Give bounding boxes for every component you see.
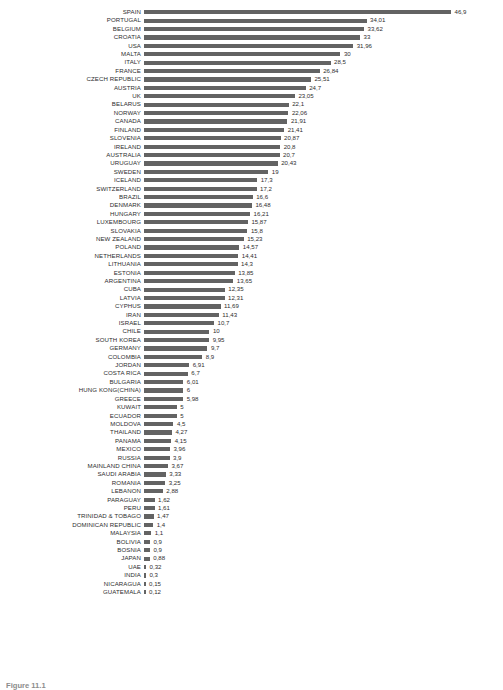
bar-category-label: MALTA bbox=[0, 50, 144, 58]
bar-category-label: SLOVENIA bbox=[0, 134, 144, 142]
bar bbox=[144, 44, 353, 48]
bar-track: 1,62 bbox=[144, 496, 503, 504]
bar-category-label: CANADA bbox=[0, 117, 144, 125]
bar-category-label: NICARAGUA bbox=[0, 580, 144, 588]
bar-row: DOMINICAN REPUBLIC1,4 bbox=[0, 521, 503, 529]
bar-category-label: IRELAND bbox=[0, 143, 144, 151]
bar-category-label: AUSTRIA bbox=[0, 84, 144, 92]
bar-value-label: 30 bbox=[340, 50, 350, 58]
bar-category-label: BOSNIA bbox=[0, 546, 144, 554]
bar-category-label: PORTUGAL bbox=[0, 16, 144, 24]
bar-track: 8,9 bbox=[144, 353, 503, 361]
bar-value-label: 12,31 bbox=[225, 294, 244, 302]
bar-category-label: CUBA bbox=[0, 285, 144, 293]
bar bbox=[144, 464, 168, 468]
bar-row: ARGENTINA13,65 bbox=[0, 277, 503, 285]
bar-row: SAUDI ARABIA3,33 bbox=[0, 470, 503, 478]
bar-value-label: 16,48 bbox=[252, 201, 271, 209]
bar-row: NORWAY22,06 bbox=[0, 109, 503, 117]
bar-category-label: ITALY bbox=[0, 58, 144, 66]
bar bbox=[144, 397, 183, 401]
bar-row: IRELAND20,8 bbox=[0, 143, 503, 151]
bar-value-label: 9,95 bbox=[209, 336, 224, 344]
bar bbox=[144, 170, 268, 174]
bar-category-label: GUATEMALA bbox=[0, 588, 144, 596]
bar bbox=[144, 103, 289, 107]
bar-value-label: 22,1 bbox=[289, 100, 304, 108]
bar-value-label: 16,21 bbox=[250, 210, 269, 218]
bar-value-label: 10 bbox=[209, 327, 219, 335]
bar-row: BOLIVIA0,9 bbox=[0, 538, 503, 546]
bar-row: GREECE5,98 bbox=[0, 395, 503, 403]
bar-track: 17,2 bbox=[144, 185, 503, 193]
bar-row: BELARUS22,1 bbox=[0, 100, 503, 108]
bar-track: 30 bbox=[144, 50, 503, 58]
bar-track: 1,1 bbox=[144, 529, 503, 537]
bar-track: 17,3 bbox=[144, 176, 503, 184]
bar-category-label: LITHUANIA bbox=[0, 260, 144, 268]
bar-row: MAINLAND CHINA3,67 bbox=[0, 462, 503, 470]
bar-row: CANADA21,91 bbox=[0, 117, 503, 125]
bar-track: 5,98 bbox=[144, 395, 503, 403]
bar-track: 14,3 bbox=[144, 260, 503, 268]
bar-row: CHILE10 bbox=[0, 327, 503, 335]
bar-category-label: POLAND bbox=[0, 243, 144, 251]
bar-category-label: RUSSIA bbox=[0, 454, 144, 462]
bar-value-label: 6,01 bbox=[183, 378, 198, 386]
bar-value-label: 0,15 bbox=[146, 580, 161, 588]
bar-value-label: 10,7 bbox=[214, 319, 229, 327]
bar-row: MOLDOVA4,5 bbox=[0, 420, 503, 428]
bar-row: MALTA30 bbox=[0, 50, 503, 58]
bar-track: 21,41 bbox=[144, 126, 503, 134]
bar-track: 16,6 bbox=[144, 193, 503, 201]
bar-value-label: 12,35 bbox=[225, 285, 244, 293]
bar-category-label: BELGIUM bbox=[0, 25, 144, 33]
bar bbox=[144, 161, 278, 165]
bar-category-label: ICELAND bbox=[0, 176, 144, 184]
bar-value-label: 23,05 bbox=[295, 92, 314, 100]
bar-category-label: BELARUS bbox=[0, 100, 144, 108]
bar-track: 16,48 bbox=[144, 201, 503, 209]
bar-category-label: SLOVAKIA bbox=[0, 227, 144, 235]
bar-row: LITHUANIA14,3 bbox=[0, 260, 503, 268]
bar-row: GERMANY9,7 bbox=[0, 344, 503, 352]
bar-value-label: 17,3 bbox=[257, 176, 272, 184]
bar-category-label: HUNGARY bbox=[0, 210, 144, 218]
bar-row: ICELAND17,3 bbox=[0, 176, 503, 184]
bar-value-label: 0,88 bbox=[150, 554, 165, 562]
bar bbox=[144, 346, 207, 350]
figure-caption: Figure 11.1 bbox=[6, 681, 501, 690]
bar-category-label: HUNG KONG(CHINA) bbox=[0, 386, 144, 394]
bar-value-label: 6 bbox=[183, 386, 190, 394]
bar bbox=[144, 229, 247, 233]
bar-row: FINLAND21,41 bbox=[0, 126, 503, 134]
bar bbox=[144, 145, 280, 149]
bar-track: 22,06 bbox=[144, 109, 503, 117]
bar-category-label: DOMINICAN REPUBLIC bbox=[0, 521, 144, 529]
bar bbox=[144, 439, 171, 443]
bar bbox=[144, 220, 248, 224]
bar-category-label: SOUTH KOREA bbox=[0, 336, 144, 344]
bar-row: PARAGUAY1,62 bbox=[0, 496, 503, 504]
bar-value-label: 13,85 bbox=[235, 269, 254, 277]
bar-value-label: 3,33 bbox=[166, 470, 181, 478]
bar-value-label: 3,25 bbox=[165, 479, 180, 487]
bar-row: AUSTRALIA20,7 bbox=[0, 151, 503, 159]
bar-track: 4,15 bbox=[144, 437, 503, 445]
bar-row: DENMARK16,48 bbox=[0, 201, 503, 209]
bar-category-label: NETHERLANDS bbox=[0, 252, 144, 260]
bar-value-label: 3,96 bbox=[170, 445, 185, 453]
bar-row: UAE0,32 bbox=[0, 563, 503, 571]
bar bbox=[144, 262, 238, 266]
bar-value-label: 33,62 bbox=[364, 25, 383, 33]
bar-track: 0,9 bbox=[144, 538, 503, 546]
bar-row: URUGUAY20,43 bbox=[0, 159, 503, 167]
bar-category-label: FINLAND bbox=[0, 126, 144, 134]
bar-track: 6 bbox=[144, 386, 503, 394]
bar-value-label: 31,96 bbox=[353, 42, 372, 50]
bar-track: 21,91 bbox=[144, 117, 503, 125]
bar-row: CUBA12,35 bbox=[0, 285, 503, 293]
bar bbox=[144, 288, 225, 292]
bar-track: 25,51 bbox=[144, 75, 503, 83]
bar-category-label: FRANCE bbox=[0, 67, 144, 75]
